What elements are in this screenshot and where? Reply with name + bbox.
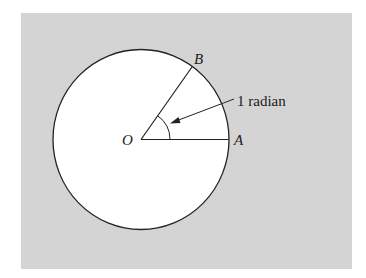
radian-diagram: O A B 1 radian [0, 0, 366, 278]
label-radian: 1 radian [237, 93, 286, 109]
label-a: A [233, 132, 244, 148]
label-o: O [122, 132, 133, 148]
label-b: B [194, 51, 203, 67]
